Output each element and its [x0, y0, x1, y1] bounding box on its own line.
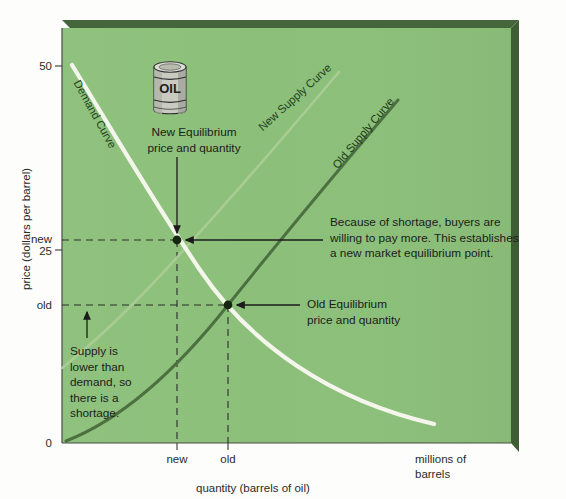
oil-barrel-text: OIL [159, 81, 181, 96]
old-equilibrium-annotation: Old Equilibrium price and quantity [307, 297, 477, 328]
plot-top-bevel [62, 20, 519, 28]
y-tick-label-50: 50 [16, 59, 52, 73]
supply-lower-note-annotation: Supply is lower than demand, so there is… [70, 344, 150, 422]
shortage-note-annotation: Because of shortage, buyers are willing … [330, 215, 540, 262]
x-tick-label-new: new [152, 452, 202, 466]
x-axis-end-label: millions of barrels [415, 452, 525, 482]
y-tick-label-25: 25 [16, 244, 52, 258]
y-axis-title: price (dollars per barrel) [20, 168, 32, 290]
y-tick-label-old: old [6, 298, 52, 312]
x-axis-title: quantity (barrels of oil) [196, 481, 310, 495]
x-tick-label-old: old [203, 452, 253, 466]
new-equilibrium-annotation: New Equilibrium price and quantity [114, 125, 274, 156]
figure-root: OIL price (dollars per barrel) 50 new 25… [0, 0, 566, 499]
y-tick-label-0: 0 [16, 436, 52, 450]
new-equilibrium-point [173, 236, 182, 245]
old-equilibrium-point [224, 301, 233, 310]
oil-barrel-icon: OIL [154, 62, 186, 114]
